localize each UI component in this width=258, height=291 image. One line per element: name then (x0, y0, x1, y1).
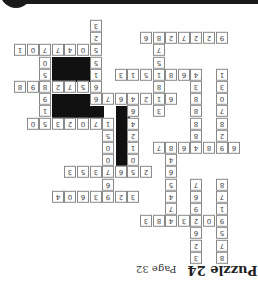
grid-cell: 8 (153, 32, 165, 44)
grid-cell: 3 (115, 69, 127, 81)
grid-cell: 7 (39, 44, 51, 56)
grid-cell: 0 (77, 118, 89, 130)
grid-cell: 0 (77, 44, 89, 56)
page-title: Puzzle 24 Page 32 (136, 262, 257, 281)
grid-cell: 4 (64, 44, 76, 56)
grid-cell: 5 (165, 179, 177, 191)
grid-cell: 2 (216, 130, 228, 142)
grid-cell: 6 (165, 166, 177, 178)
grid-cell: 7 (64, 81, 76, 93)
grid-cell: 5 (102, 130, 114, 142)
grid-cell: 2 (115, 191, 127, 203)
grid-cell: 5 (39, 118, 51, 130)
grid-cell: 2 (203, 32, 215, 44)
grid-cell: 2 (190, 32, 202, 44)
grid-cell: 7 (153, 44, 165, 56)
grid-cell: 4 (165, 154, 177, 166)
grid-cell: 2 (190, 215, 202, 227)
grid-cell: 9 (102, 191, 114, 203)
grid-cell: 4 (52, 191, 64, 203)
grid-cell: 7 (102, 93, 114, 105)
grid-cell: 0 (27, 44, 39, 56)
grid-cell: 1 (216, 203, 228, 215)
grid-cell: 4 (190, 69, 202, 81)
black-block (52, 106, 104, 118)
grid-cell: 9 (190, 203, 202, 215)
grid-cell: 6 (102, 179, 114, 191)
grid-cell: 8 (153, 81, 165, 93)
grid-cell: 6 (115, 93, 127, 105)
grid-cell: 8 (190, 93, 202, 105)
grid-cell: 9 (39, 93, 51, 105)
number-crossword-grid: 3210774050555131518641682722978982756833… (0, 0, 258, 291)
grid-cell: 7 (165, 203, 177, 215)
grid-cell: 8 (165, 69, 177, 81)
grid-cell: 0 (127, 154, 139, 166)
grid-cell: 6 (77, 191, 89, 203)
grid-cell: 2 (140, 166, 152, 178)
grid-cell: 6 (178, 69, 190, 81)
grid-cell: 9 (216, 142, 228, 154)
grid-cell: 4 (127, 93, 139, 105)
grid-cell: 5 (39, 69, 51, 81)
grid-cell: 2 (90, 32, 102, 44)
grid-cell: 9 (216, 215, 228, 227)
grid-cell: 3 (127, 191, 139, 203)
grid-cell: 3 (52, 118, 64, 130)
grid-cell: 8 (216, 179, 228, 191)
grid-cell: 0 (64, 191, 76, 203)
grid-cell: 7 (102, 166, 114, 178)
grid-cell: 3 (90, 191, 102, 203)
grid-cell: 7 (216, 105, 228, 117)
grid-cell: 6 (178, 142, 190, 154)
grid-cell: 8 (216, 118, 228, 130)
grid-cell: 1 (127, 69, 139, 81)
grid-cell: 3 (178, 215, 190, 227)
grid-cell: 1 (153, 93, 165, 105)
grid-cell: 0 (39, 57, 51, 69)
grid-cell: 3 (90, 166, 102, 178)
grid-cell: 6 (115, 166, 127, 178)
grid-cell: 0 (102, 154, 114, 166)
grid-cell: 1 (90, 69, 102, 81)
grid-cell: 8 (39, 81, 51, 93)
grid-cell: 4 (165, 191, 177, 203)
grid-cell: 6 (90, 81, 102, 93)
grid-cell: 5 (77, 81, 89, 93)
puzzle-title: Puzzle 24 (188, 263, 258, 278)
grid-cell: 4 (127, 118, 139, 130)
grid-cell: 5 (216, 227, 228, 239)
grid-cell: 5 (140, 69, 152, 81)
grid-cell: 2 (165, 32, 177, 44)
grid-cell: 7 (216, 191, 228, 203)
grid-cell: 7 (178, 32, 190, 44)
page-number: Page 32 (136, 264, 176, 275)
grid-cell: 2 (190, 240, 202, 252)
grid-cell: 4 (165, 215, 177, 227)
grid-cell: 7 (52, 44, 64, 56)
grid-cell: 6 (228, 142, 240, 154)
grid-cell: 7 (190, 179, 202, 191)
grid-cell: 8 (190, 130, 202, 142)
grid-cell: 1 (127, 142, 139, 154)
grid-cell: 6 (190, 191, 202, 203)
grid-cell: 3 (190, 81, 202, 93)
grid-cell: 8 (14, 81, 26, 93)
grid-cell: 8 (153, 215, 165, 227)
black-block (52, 57, 90, 82)
grid-cell: 6 (90, 93, 102, 105)
grid-cell: 3 (140, 215, 152, 227)
grid-cell: 5 (90, 44, 102, 56)
grid-cell: 8 (203, 142, 215, 154)
grid-cell: 5 (127, 166, 139, 178)
grid-cell: 7 (216, 240, 228, 252)
black-block (52, 94, 90, 106)
grid-cell: 3 (216, 81, 228, 93)
grid-cell: 7 (153, 142, 165, 154)
grid-cell: 1 (153, 69, 165, 81)
grid-cell: 3 (153, 105, 165, 117)
grid-cell: 1 (14, 44, 26, 56)
grid-cell: 6 (140, 32, 152, 44)
grid-cell: 3 (90, 20, 102, 32)
grid-cell: 1 (39, 105, 51, 117)
